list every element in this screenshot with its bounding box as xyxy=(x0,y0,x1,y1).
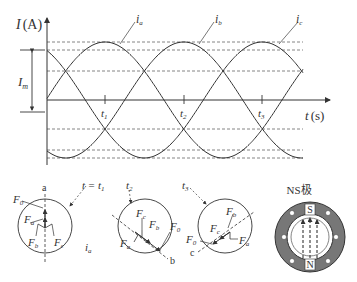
circle2-Fa: Fa xyxy=(119,237,131,251)
curve-label-ic: ic xyxy=(296,12,303,27)
circle2-F0: F0 xyxy=(169,220,181,234)
circle3-Fa: Fa xyxy=(238,234,250,248)
circle3-time-label: t3 xyxy=(182,179,189,193)
curve-label-ib: ib xyxy=(215,12,222,27)
circle2-end-label: b xyxy=(170,255,175,266)
circle3-end-label: c xyxy=(190,247,195,258)
y-axis-label: I(A) xyxy=(15,17,42,33)
circle1-Fa: Fa xyxy=(23,213,35,227)
circle3-Fb: Fb xyxy=(225,205,237,219)
amplitude-bracket xyxy=(20,50,45,112)
circle1-time-label: t = t1 xyxy=(82,179,105,193)
south-pole-label: S xyxy=(307,204,313,215)
north-pole-label: N xyxy=(306,259,313,270)
circle1-end-label: a xyxy=(42,182,47,193)
amplitude-label: Im xyxy=(17,74,28,91)
circle2-Fb: Fb xyxy=(148,218,160,232)
x-axis-label: t(s) xyxy=(305,108,324,123)
tick-t1: t1 xyxy=(101,107,108,121)
tick-t3: t3 xyxy=(258,107,265,121)
circle3-Fc: Fc xyxy=(209,222,221,236)
circle1-Fb: Fb xyxy=(27,236,39,250)
curve-label-ia: ia xyxy=(136,12,143,27)
curve-leaders xyxy=(120,22,298,44)
circle1-current-label: ia xyxy=(85,241,92,255)
circle2-Fc: Fc xyxy=(135,207,147,221)
circle1-F0: F0 xyxy=(12,193,24,207)
circle2-time-label: t2 xyxy=(126,179,133,193)
diagram-canvas: I(A) t(s) Im t1 t2 t3 ia ib ic xyxy=(0,0,357,282)
magnet-title: NS极 xyxy=(286,183,311,196)
circle3-F0: F0 xyxy=(185,233,197,247)
circle1-Fc: Fc xyxy=(53,236,65,250)
tick-t2: t2 xyxy=(180,107,187,121)
